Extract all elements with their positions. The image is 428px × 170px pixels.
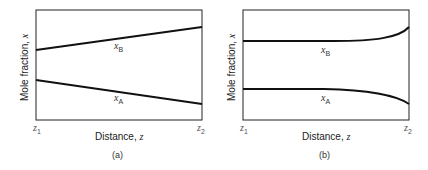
caption-b: (b) <box>319 150 330 160</box>
tick-z2-a: z2 <box>197 122 205 135</box>
label-xb-a: xB <box>114 40 123 53</box>
plot-b <box>214 0 428 170</box>
label-xb-b: xB <box>321 44 330 57</box>
tick-z2-b: z2 <box>404 122 412 135</box>
plot-a <box>0 0 214 170</box>
x-axis-label-b: Distance, z <box>302 131 350 142</box>
x-axis-label-a: Distance, z <box>95 131 143 142</box>
y-axis-label-b: Mole fraction, x <box>226 34 237 101</box>
label-xa-b: xA <box>321 92 330 105</box>
label-xa-a: xA <box>114 92 123 105</box>
tick-z1-b: z1 <box>240 122 248 135</box>
curve-xb-b <box>243 27 409 41</box>
panel-b: Mole fraction, x xB xA z1 z2 Distance, z… <box>214 0 428 170</box>
caption-a: (a) <box>112 150 123 160</box>
y-axis-label-a: Mole fraction, x <box>19 34 30 101</box>
panel-a: Mole fraction, x xB xA z1 z2 Distance, z… <box>0 0 214 170</box>
tick-z1-a: z1 <box>33 122 41 135</box>
